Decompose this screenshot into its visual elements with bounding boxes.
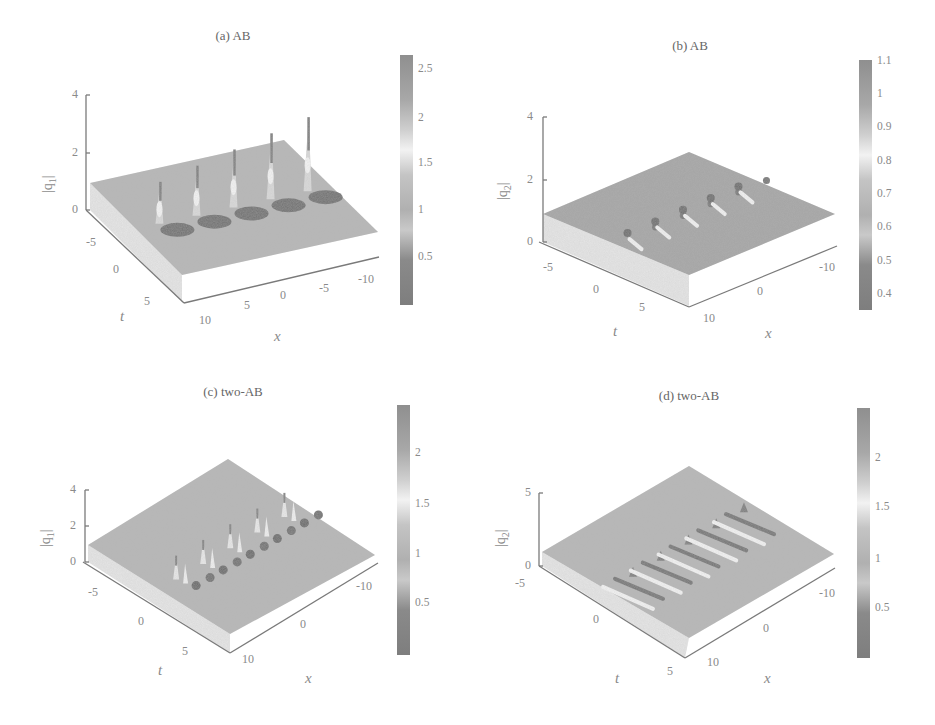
z-label-subscript: 1 [47, 178, 58, 183]
t-tick-label: 0 [593, 282, 599, 297]
t-tick-label: 5 [667, 664, 673, 679]
x-axis-label: x [305, 670, 312, 687]
z-label-text: |q [495, 190, 510, 200]
panel-title: (b) AB [672, 38, 708, 54]
panel-b: (b) AB|q2|420-505100-10tx1.110.90.80.70.… [467, 0, 934, 362]
t-tick-label: 0 [138, 614, 144, 629]
colorbar [859, 60, 872, 310]
z-tick-label: 2 [527, 172, 533, 187]
z-label-subscript: 2 [502, 185, 513, 190]
z-tick-label: 0 [70, 554, 76, 569]
colorbar-tick-label: 1.5 [875, 500, 889, 512]
colorbar-tick-label: 0.5 [877, 254, 891, 266]
x-tick-label: 10 [703, 311, 715, 326]
t-tick-label: -5 [86, 235, 96, 250]
x-tick-label: -10 [356, 579, 372, 594]
z-label-text: |q [40, 183, 55, 193]
colorbar-tick-label: 1 [877, 87, 883, 99]
x-tick-label: 10 [242, 652, 254, 667]
z-label-subscript: 1 [45, 532, 56, 537]
z-label-text: |q [38, 537, 53, 547]
colorbar-tick-label: 2 [418, 111, 424, 123]
colorbar-tick-label: 1 [875, 552, 881, 564]
z-tick-label: 2 [72, 145, 78, 160]
colorbar-tick-label: 1.5 [415, 497, 429, 509]
colorbar-tick-label: 0.8 [877, 154, 891, 166]
t-tick-label: -5 [515, 576, 525, 591]
x-tick-label: -5 [319, 281, 329, 296]
z-label-bar: | [38, 529, 53, 532]
colorbar-tick-label: 0.5 [415, 596, 429, 608]
t-axis-label: t [120, 308, 124, 325]
t-axis-label: t [615, 670, 619, 687]
x-axis-label: x [274, 328, 281, 345]
t-tick-label: -5 [543, 260, 553, 275]
z-tick-label: 4 [527, 109, 533, 124]
t-tick-label: 5 [144, 294, 150, 309]
t-tick-label: 0 [593, 612, 599, 627]
t-axis-label: t [613, 323, 617, 340]
t-axis-label: t [158, 662, 162, 679]
panel-title: (c) two-AB [203, 384, 263, 400]
x-axis-label: x [765, 325, 772, 342]
colorbar-tick-label: 1 [418, 203, 424, 215]
z-axis-label: |q2| [495, 182, 513, 200]
colorbar-tick-label: 0.9 [877, 120, 891, 132]
x-axis-label: x [764, 670, 771, 687]
z-axis-label: |q1| [40, 175, 58, 193]
z-tick-label: 0 [525, 558, 531, 573]
panel-a: (a) AB|q1|420-5051050-5-10tx2.521.510.5 [0, 0, 467, 362]
colorbar-tick-label: 0.7 [877, 187, 891, 199]
colorbar-tick-label: 0.5 [875, 601, 889, 613]
colorbar-tick-label: 1.1 [877, 54, 891, 66]
x-tick-label: -10 [358, 272, 374, 287]
x-tick-label: 5 [244, 298, 250, 313]
colorbar-tick-label: 2.5 [418, 62, 432, 74]
z-axis-label: |q1| [38, 529, 56, 547]
z-label-bar: | [495, 182, 510, 185]
z-axis-label: |q2| [493, 529, 511, 547]
z-label-bar: | [40, 175, 55, 178]
z-tick-label: 4 [70, 482, 76, 497]
colorbar [857, 408, 870, 658]
colorbar-tick-label: 2 [415, 446, 421, 458]
panel-title: (a) AB [215, 28, 250, 44]
colorbar [397, 405, 410, 655]
x-tick-label: 10 [707, 655, 719, 670]
z-label-text: |q [493, 537, 508, 547]
colorbar-tick-label: 0.5 [418, 250, 432, 262]
panel-c: (c) two-AB|q1|420-505100-10tx21.510.5 [0, 362, 467, 724]
surface-plot-a [0, 0, 467, 362]
z-label-subscript: 2 [500, 532, 511, 537]
t-tick-label: -5 [88, 585, 98, 600]
panel-title: (d) two-AB [659, 388, 719, 404]
colorbar-tick-label: 2 [875, 451, 881, 463]
t-tick-label: 0 [113, 262, 119, 277]
z-tick-label: 0 [527, 234, 533, 249]
z-tick-label: 5 [525, 485, 531, 500]
colorbar-tick-label: 1 [415, 547, 421, 559]
t-tick-label: 5 [639, 300, 645, 315]
x-tick-label: -10 [819, 586, 835, 601]
z-label-bar: | [493, 529, 508, 532]
x-tick-label: 0 [757, 284, 763, 299]
z-tick-label: 0 [72, 202, 78, 217]
colorbar-tick-label: 1.5 [418, 156, 432, 168]
x-tick-label: 0 [300, 617, 306, 632]
z-tick-label: 2 [70, 518, 76, 533]
x-tick-label: -10 [819, 260, 835, 275]
colorbar-tick-label: 0.4 [877, 287, 891, 299]
z-tick-label: 4 [72, 87, 78, 102]
x-tick-label: 0 [763, 621, 769, 636]
colorbar-tick-label: 0.6 [877, 220, 891, 232]
panel-d: (d) two-AB|q2|50-505100-10tx21.510.5 [467, 362, 934, 724]
x-tick-label: 0 [280, 288, 286, 303]
x-tick-label: 10 [199, 313, 211, 328]
t-tick-label: 5 [182, 644, 188, 659]
colorbar [400, 55, 413, 305]
